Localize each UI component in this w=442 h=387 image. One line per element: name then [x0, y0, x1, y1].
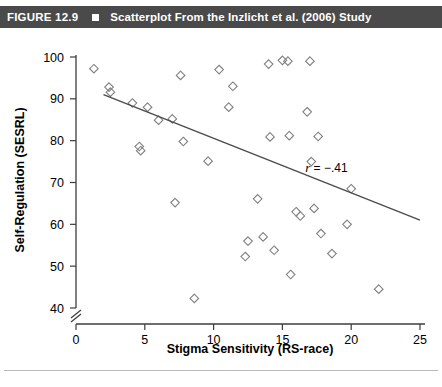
scatter-point [253, 195, 262, 204]
scatter-point [317, 229, 326, 238]
filled-square-icon [92, 14, 99, 21]
y-tick-label: 100 [43, 51, 64, 65]
y-tick-label: 50 [50, 260, 64, 274]
scatter-point [303, 108, 312, 117]
scatter-points-group [90, 56, 383, 303]
scatter-point [270, 246, 279, 255]
y-tick-label: 70 [50, 176, 64, 190]
scatter-point [190, 294, 199, 303]
chart-axes [71, 55, 425, 324]
scatter-point [374, 285, 383, 294]
y-tick-label: 40 [50, 302, 64, 316]
scatter-point [135, 142, 144, 151]
y-tick-label: 60 [50, 218, 64, 232]
figure-header-bar: FIGURE 12.9 Scatterplot From the Inzlich… [0, 6, 442, 28]
x-axis-title: Stigma Sensitivity (RS-race) [167, 342, 334, 356]
y-axis-break-icon [71, 310, 81, 322]
x-tick-label: 25 [413, 333, 427, 347]
scatter-point [244, 237, 253, 246]
scatter-point [343, 220, 352, 229]
scatter-point [285, 131, 294, 140]
y-tick-label: 80 [50, 134, 64, 148]
figure-title: Scatterplot From the Inzlicht et al. (20… [110, 11, 371, 23]
regression-trendline [104, 95, 420, 220]
x-tick-label: 0 [73, 333, 80, 347]
scatter-point [292, 207, 301, 216]
scatter-point [241, 252, 250, 261]
correlation-annotation: r = −.41 [305, 160, 348, 175]
scatter-point [224, 103, 233, 112]
scatter-point [296, 212, 305, 221]
scatter-point [179, 137, 188, 146]
scatter-chart-svg: 405060708090100 0510152025 r = −.41 Stig… [0, 28, 442, 360]
y-tick-label: 90 [50, 92, 64, 106]
scatter-point [306, 57, 315, 66]
scatter-point [259, 233, 268, 242]
scatter-point [171, 198, 180, 207]
x-tick-label: 20 [344, 333, 358, 347]
scatter-point [310, 204, 319, 213]
scatter-point [328, 249, 337, 258]
scatter-point [286, 270, 295, 279]
scatter-point [264, 60, 273, 69]
scatter-point [314, 132, 323, 141]
scatter-point [136, 146, 145, 155]
x-tick-label: 5 [141, 333, 148, 347]
correlation-value: = −.41 [310, 161, 348, 175]
scatter-point [176, 71, 185, 80]
scatterplot-figure: 405060708090100 0510152025 r = −.41 Stig… [0, 28, 442, 360]
scatter-point [204, 157, 213, 166]
scatter-point [215, 65, 224, 74]
scatter-point [229, 82, 238, 91]
footer-divider [4, 370, 438, 371]
scatter-point [266, 133, 275, 142]
figure-number-label: FIGURE 12.9 [7, 11, 78, 23]
scatter-point [90, 64, 99, 73]
y-axis-ticks: 405060708090100 [43, 51, 76, 316]
y-axis-title: Self-Regulation (SESRL) [13, 107, 27, 252]
